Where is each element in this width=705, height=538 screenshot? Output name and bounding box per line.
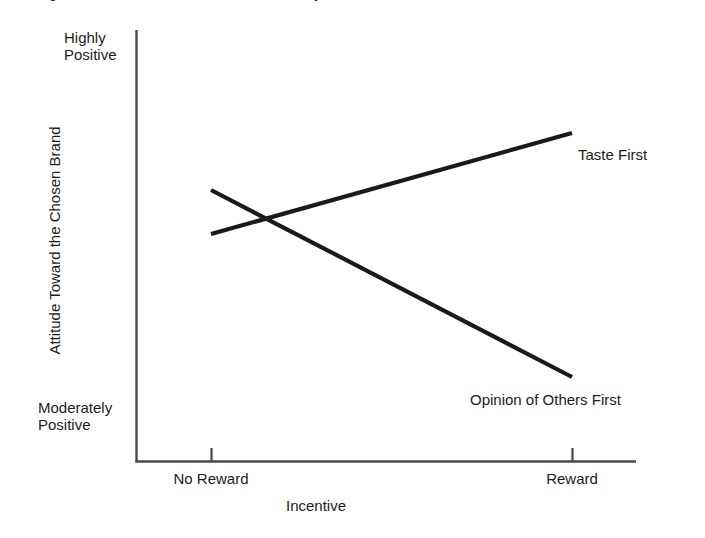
line-chart-canvas	[0, 0, 705, 538]
x-axis-title: Incentive	[286, 497, 486, 514]
x-axis-tick-label-no-reward: No Reward	[150, 470, 272, 487]
figure-container: Figure 1. Attitude Toward the Chosen Bra…	[0, 0, 705, 538]
series-label-opinion-of-others-first: Opinion of Others First	[470, 391, 621, 408]
x-axis-tick-label-reward: Reward	[521, 470, 623, 487]
y-axis-label-high: Highly Positive	[64, 29, 117, 63]
y-axis-title: Attitude Toward the Chosen Brand	[46, 76, 63, 406]
series-label-taste-first: Taste First	[578, 146, 647, 163]
series-line-opinion-of-others-first	[211, 190, 572, 377]
